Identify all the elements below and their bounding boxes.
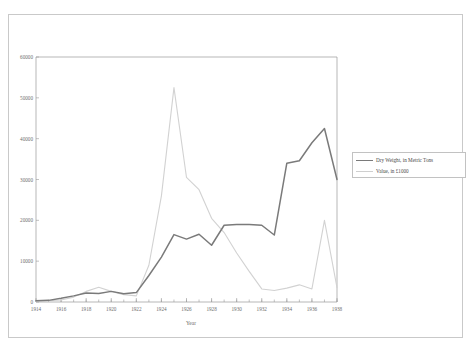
legend-label-value: Value, in £1000 [376, 168, 409, 175]
x-tick-label: 1924 [156, 306, 167, 312]
legend-item-dry-weight: Dry Weight, in Metric Tons [356, 155, 433, 166]
x-tick-label: 1920 [106, 306, 117, 312]
series-line-value [36, 88, 337, 302]
x-tick-label: 1930 [231, 306, 242, 312]
x-tick-label: 1914 [31, 306, 42, 312]
x-tick-label: 1932 [257, 306, 268, 312]
x-tick-label: 1926 [181, 306, 192, 312]
x-tick-label: 1916 [56, 306, 67, 312]
axis-frame [36, 57, 337, 302]
axes-group [36, 57, 337, 302]
y-tick-label: 0 [30, 299, 33, 305]
x-axis-ticks: 1914191619181920192219241926192819301932… [31, 298, 343, 312]
legend-item-value: Value, in £1000 [356, 166, 409, 177]
y-tick-label: 10000 [20, 258, 33, 264]
series-lines [36, 88, 337, 302]
y-tick-label: 40000 [20, 136, 33, 142]
series-line-dry-weight [36, 128, 337, 300]
chart-legend: Dry Weight, in Metric Tons Value, in £10… [352, 152, 466, 178]
x-tick-label: 1918 [81, 306, 92, 312]
x-tick-label: 1928 [206, 306, 217, 312]
y-tick-label: 50000 [20, 95, 33, 101]
legend-swatch-dry-weight [356, 160, 373, 161]
legend-swatch-value [356, 171, 373, 172]
x-axis-title: Year [186, 320, 196, 326]
x-tick-label: 1922 [131, 306, 142, 312]
legend-label-dry-weight: Dry Weight, in Metric Tons [376, 157, 433, 164]
x-tick-label: 1936 [307, 306, 318, 312]
y-tick-label: 60000 [20, 54, 33, 60]
x-tick-label: 1934 [282, 306, 293, 312]
y-tick-label: 20000 [20, 217, 33, 223]
y-tick-label: 30000 [20, 177, 33, 183]
x-tick-label: 1938 [332, 306, 343, 312]
